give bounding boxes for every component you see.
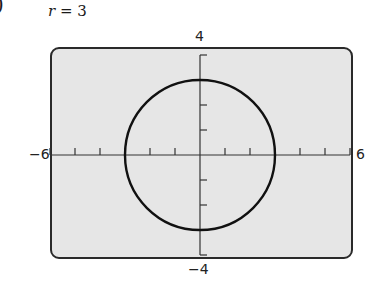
axes (50, 55, 350, 255)
